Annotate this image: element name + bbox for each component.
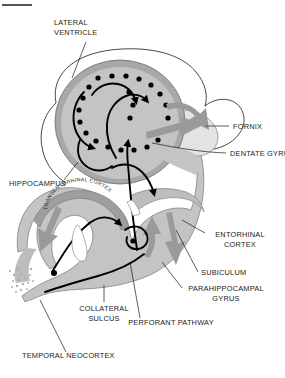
label-fornix: FORNIX bbox=[233, 122, 262, 131]
label-perforant-pathway: PERFORANT PATHWAY bbox=[128, 318, 214, 327]
label-hippocampus: HIPPOCAMPUS bbox=[9, 179, 66, 188]
parahippocampal-gyrus-label-line1: PARAHIPPOCAMPAL bbox=[188, 284, 263, 293]
label-parahippocampal-gyrus: PARAHIPPOCAMPAL GYRUS bbox=[188, 284, 263, 303]
lateral-ventricle-label-line1: LATERAL bbox=[54, 18, 88, 27]
entorhinal-cortex-label-line1: ENTORHINAL bbox=[215, 230, 265, 239]
dentate-gyrus-label: DENTATE GYRUS bbox=[230, 149, 285, 158]
perforant-pathway-label: PERFORANT PATHWAY bbox=[128, 318, 214, 327]
hippocampus-diagram-svg: TRANSENTORHINAL CORTEX LATERAL VENTRICLE… bbox=[0, 0, 285, 378]
label-entorhinal-cortex: ENTORHINAL CORTEX bbox=[215, 230, 265, 249]
anatomical-figure: TRANSENTORHINAL CORTEX LATERAL VENTRICLE… bbox=[0, 0, 285, 378]
entorhinal-cortex-label-line2: CORTEX bbox=[224, 240, 256, 249]
collateral-sulcus-notch bbox=[72, 225, 87, 261]
label-temporal-neocortex: TEMPORAL NEOCORTEX bbox=[22, 351, 115, 360]
collateral-sulcus-label-line2: SULCUS bbox=[88, 314, 119, 323]
label-dentate-gyrus: DENTATE GYRUS bbox=[230, 149, 285, 158]
label-lateral-ventricle: LATERAL VENTRICLE bbox=[54, 18, 97, 37]
lateral-ventricle-label-line2: VENTRICLE bbox=[54, 28, 97, 37]
temporal-neocortex-label: TEMPORAL NEOCORTEX bbox=[22, 351, 115, 360]
fornix-label: FORNIX bbox=[233, 122, 262, 131]
leader-temporal-neocortex bbox=[40, 300, 66, 352]
parahippocampal-gyrus-label-line2: GYRUS bbox=[212, 294, 239, 303]
subiculum-label: SUBICULUM bbox=[201, 268, 246, 277]
collateral-sulcus-label-line1: COLLATERAL bbox=[79, 304, 129, 313]
leader-parahippocampal-gyrus bbox=[162, 262, 182, 288]
label-subiculum: SUBICULUM bbox=[201, 268, 246, 277]
hippocampus-label: HIPPOCAMPUS bbox=[9, 179, 66, 188]
label-collateral-sulcus: COLLATERAL SULCUS bbox=[79, 304, 129, 323]
